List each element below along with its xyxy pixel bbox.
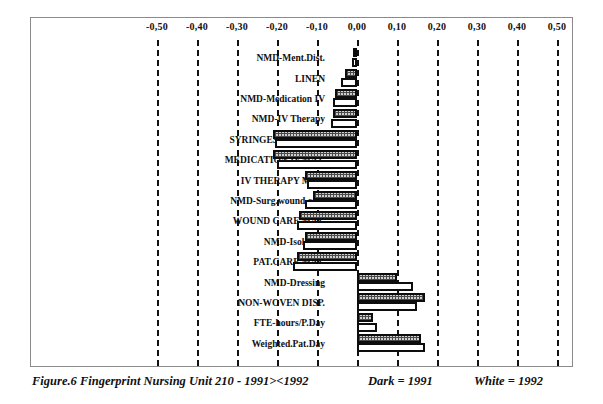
category-label: NON-WOVEN DISP. bbox=[238, 298, 325, 308]
category-label: FTE-hours/P.Day bbox=[254, 318, 325, 328]
plot-area: NMD-Ment.Dist.LINENNMD-Medication IVNMD-… bbox=[31, 40, 574, 366]
bar-1991 bbox=[357, 293, 425, 302]
x-tick-label: 0,10 bbox=[388, 21, 406, 32]
bar-1992 bbox=[357, 343, 425, 352]
bar-1991 bbox=[297, 252, 357, 261]
chart-row: Weighted.Pat.Day bbox=[31, 334, 574, 354]
bar-1992 bbox=[357, 302, 417, 311]
chart-row: SYRINGES/NEEDLES bbox=[31, 130, 574, 150]
chart-row: NMD-Medication IV bbox=[31, 89, 574, 109]
x-tick-label: -0,30 bbox=[226, 21, 248, 32]
bar-1991 bbox=[357, 313, 373, 322]
bar-1992 bbox=[275, 139, 357, 148]
chart-row: FTE-hours/P.Day bbox=[31, 313, 574, 333]
chart-row: LINEN bbox=[31, 68, 574, 88]
x-tick-label: 0,00 bbox=[348, 21, 366, 32]
bar-1992 bbox=[307, 180, 357, 189]
chart-row: NMD-IV Therapy bbox=[31, 109, 574, 129]
bar-1992 bbox=[341, 78, 357, 87]
x-tick-label: 0,40 bbox=[508, 21, 526, 32]
chart-row: NMD-Isolation bbox=[31, 232, 574, 252]
bar-1992 bbox=[297, 221, 357, 230]
bar-1992 bbox=[305, 200, 357, 209]
category-label: NMD-Dressing bbox=[264, 278, 325, 288]
bar-1992 bbox=[352, 58, 357, 67]
x-tick-label: 0,30 bbox=[468, 21, 486, 32]
chart-row: MEDICATION IV.MAT. bbox=[31, 150, 574, 170]
bar-1991 bbox=[353, 48, 357, 57]
bar-1992 bbox=[277, 160, 357, 169]
bar-1991 bbox=[357, 273, 397, 282]
bar-1992 bbox=[333, 98, 357, 107]
bar-1991 bbox=[335, 89, 357, 98]
bar-1991 bbox=[273, 130, 357, 139]
bar-1991 bbox=[357, 334, 421, 343]
chart-frame: -0,50-0,40-0,30-0,20-0,100,000,100,200,3… bbox=[30, 17, 573, 367]
legend-white-label: White = 1992 bbox=[474, 374, 543, 389]
category-label: Weighted.Pat.Day bbox=[252, 339, 325, 349]
x-tick-label: 0,50 bbox=[548, 21, 566, 32]
category-label: NMD-Medication IV bbox=[240, 94, 325, 104]
chart-row: PAT.CARE MAT. bbox=[31, 252, 574, 272]
chart-row: NON-WOVEN DISP. bbox=[31, 293, 574, 313]
chart-row: NMD-Ment.Dist. bbox=[31, 48, 574, 68]
x-tick-label: -0,10 bbox=[306, 21, 328, 32]
x-tick-label: -0,50 bbox=[146, 21, 168, 32]
bar-1991 bbox=[313, 191, 357, 200]
chart-row: NMD-Surg.wound care bbox=[31, 191, 574, 211]
bar-1992 bbox=[357, 282, 413, 291]
category-label: NMD-Ment.Dist. bbox=[256, 53, 325, 63]
figure-caption-title: Figure.6 Fingerprint Nursing Unit 210 - … bbox=[32, 374, 308, 389]
category-label: LINEN bbox=[295, 74, 325, 84]
figure-root: -0,50-0,40-0,30-0,20-0,100,000,100,200,3… bbox=[0, 0, 603, 404]
bar-1991 bbox=[305, 232, 357, 241]
bar-1992 bbox=[293, 262, 357, 271]
chart-row: IV THERAPY MAT. bbox=[31, 170, 574, 190]
bar-1991 bbox=[333, 109, 357, 118]
legend-dark-label: Dark = 1991 bbox=[368, 374, 433, 389]
chart-row: NMD-Dressing bbox=[31, 272, 574, 292]
figure-caption-row: Figure.6 Fingerprint Nursing Unit 210 - … bbox=[30, 372, 573, 398]
bar-1991 bbox=[345, 69, 357, 78]
x-tick-label: 0,20 bbox=[428, 21, 446, 32]
chart-row: WOUND CARE MAT. bbox=[31, 211, 574, 231]
category-label: NMD-IV Therapy bbox=[252, 114, 325, 124]
bar-1991 bbox=[273, 150, 357, 159]
x-tick-label: -0,40 bbox=[186, 21, 208, 32]
x-axis-tick-labels: -0,50-0,40-0,30-0,20-0,100,000,100,200,3… bbox=[31, 18, 574, 40]
bar-1991 bbox=[299, 211, 357, 220]
bar-1992 bbox=[357, 323, 377, 332]
x-tick-label: -0,20 bbox=[266, 21, 288, 32]
bar-1992 bbox=[331, 119, 357, 128]
bar-1991 bbox=[305, 171, 357, 180]
bar-1992 bbox=[303, 241, 357, 250]
